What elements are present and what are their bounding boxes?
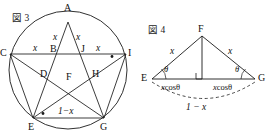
- length-label-fg: x: [228, 47, 232, 57]
- angle-label-g: θ: [235, 65, 239, 74]
- chord-e-i: [33, 54, 126, 118]
- point-label-h: H: [92, 69, 99, 79]
- length-label-cb: x: [33, 44, 37, 54]
- figure-4-panel: 図 4 F E G x x θ θ xcosθ xcosθ 1 − x: [140, 0, 270, 138]
- angle-dot-i: [111, 55, 114, 58]
- figure-3-panel: 図 3 A C I E G B J D F H x x x x 1−x: [0, 0, 140, 138]
- trig-label-em: xcosθ: [161, 83, 180, 92]
- chord-g-i: [104, 54, 126, 118]
- angle-label-e: θ: [164, 65, 168, 74]
- right-angle-marker: [196, 73, 202, 79]
- length-label-ji: x: [96, 44, 100, 54]
- figure-sheet: 図 3 A C I E G B J D F H x x x x 1−x: [0, 0, 270, 138]
- point-label-b: B: [50, 44, 57, 54]
- point-label-g: G: [100, 122, 107, 132]
- point-label-e2: E: [141, 73, 147, 83]
- figure-4-drawing: [140, 0, 270, 138]
- chord-a-e: [33, 22, 68, 118]
- chord-c-g: [10, 54, 104, 118]
- point-label-c: C: [0, 48, 7, 58]
- point-label-f2: F: [198, 24, 204, 34]
- angle-dot-e: [42, 112, 45, 115]
- side-f-g: [202, 36, 255, 79]
- length-label-ab: x: [53, 33, 57, 43]
- figure-4-caption: 図 4: [148, 26, 165, 36]
- figure-3-caption: 図 3: [12, 14, 29, 24]
- point-label-j: J: [81, 44, 85, 54]
- length-label-eg: 1−x: [58, 107, 73, 117]
- trig-label-mg-suffix: cosθ: [217, 82, 232, 92]
- base-length-label: 1 − x: [186, 103, 206, 113]
- point-label-d: D: [40, 69, 47, 79]
- length-label-aj: x: [76, 33, 80, 43]
- side-e-f: [152, 36, 202, 79]
- point-label-a: A: [64, 3, 71, 13]
- trig-label-mg: xcosθ: [213, 83, 232, 92]
- trig-label-em-suffix: cosθ: [165, 82, 180, 92]
- point-label-g2: G: [258, 73, 265, 83]
- point-label-f: F: [66, 72, 72, 82]
- chord-c-e: [10, 54, 33, 118]
- point-label-i: I: [128, 48, 131, 58]
- length-label-ef: x: [170, 47, 174, 57]
- point-label-e: E: [28, 122, 34, 132]
